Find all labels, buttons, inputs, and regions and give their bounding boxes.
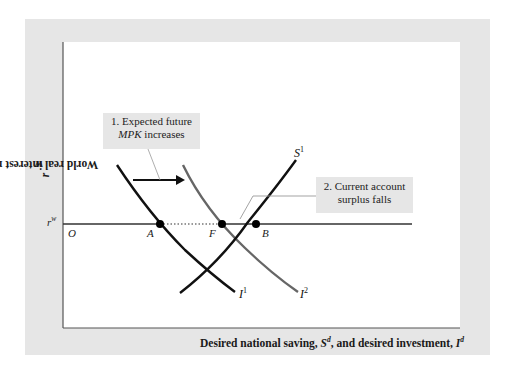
point-f-label: F bbox=[209, 227, 216, 239]
curve-i2-label: I2 bbox=[300, 286, 308, 302]
point-a-label: A bbox=[147, 227, 154, 239]
point-f-marker bbox=[218, 220, 226, 228]
x-axis-label: Desired national saving, Sd, and desired… bbox=[200, 335, 464, 349]
curve-s1-label: S1 bbox=[294, 145, 304, 161]
point-b-label: B bbox=[262, 227, 269, 239]
origin-label: O bbox=[68, 227, 76, 239]
curve-i1-label: I1 bbox=[239, 286, 247, 302]
saving-curve-s1 bbox=[180, 160, 296, 293]
diagram-canvas bbox=[0, 0, 508, 374]
callout-mpk-increase: 1. Expected future MPK increases bbox=[103, 113, 200, 149]
callout2-leader bbox=[240, 196, 316, 219]
world-rate-label: rw bbox=[47, 214, 56, 228]
callout1-leader bbox=[148, 149, 160, 180]
callout-surplus-falls: 2. Current account surplus falls bbox=[316, 177, 413, 213]
point-b-marker bbox=[252, 220, 260, 228]
investment-curve-i2 bbox=[183, 165, 298, 292]
shift-arrow-head bbox=[176, 175, 185, 185]
point-a-marker bbox=[156, 220, 164, 228]
